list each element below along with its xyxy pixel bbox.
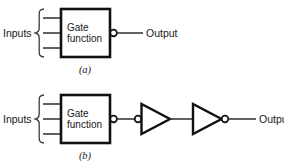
panel-b-gate-label-line2: function — [67, 119, 102, 130]
panel-b-inputs-brace — [36, 95, 45, 143]
panel-a-caption: (a) — [79, 64, 92, 76]
panel-a-inputs-brace — [36, 9, 45, 57]
panel-b-gate-output-inversion-bubble — [110, 116, 117, 123]
panel-a-output-label: Output — [146, 27, 178, 39]
panel-a-output-inversion-bubble — [110, 30, 117, 37]
panel-b-inputs-label: Inputs — [3, 113, 32, 125]
panel-b-output-label: Output — [259, 113, 284, 125]
panel-a: Inputs Gate function Output (a) — [3, 9, 178, 76]
panel-b-inverter-2-triangle — [193, 104, 222, 134]
logic-gate-figure: Inputs Gate function Output (a) — [0, 0, 284, 165]
panel-a-inputs-label: Inputs — [3, 27, 32, 39]
panel-b-gate-label-line1: Gate — [67, 108, 89, 119]
panel-b: Inputs Gate function — [3, 95, 284, 162]
panel-b-inverter-1-triangle — [142, 104, 171, 134]
panel-a-gate-label-line2: function — [67, 33, 102, 44]
panel-a-gate-label-line1: Gate — [67, 22, 89, 33]
panel-b-caption: (b) — [79, 150, 92, 162]
panel-b-inverter-1 — [135, 104, 170, 134]
panel-b-inverter-2-output-bubble-shape — [222, 116, 229, 123]
panel-b-inverter-2 — [193, 104, 228, 134]
figure-container: Inputs Gate function Output (a) — [0, 0, 284, 165]
